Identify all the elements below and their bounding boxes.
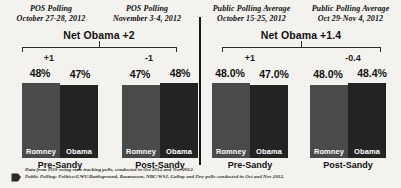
column-header-dates: Oct 29-Nov 4, 2012 [302, 14, 399, 24]
bar-label-romney: Romney [122, 147, 160, 156]
column-header-title: POS Polling [126, 4, 168, 13]
percent-label-romney-4: 48.0% [305, 68, 351, 80]
bar-obama-3: Obama [250, 85, 288, 158]
column-header-title: Public Polling Average [312, 4, 390, 13]
bar-obama-2: Obama [160, 83, 198, 158]
bar-label-romney: Romney [22, 147, 60, 156]
percent-label-obama-3: 47.0% [251, 68, 297, 80]
footnote-line-2: Public Polling: Politico/GWU/Battlegroun… [25, 174, 284, 181]
diff-label-2: -1 [124, 53, 174, 63]
percent-label-romney-3: 48.0% [207, 67, 253, 79]
source-mark-icon [11, 173, 22, 182]
bar-label-romney: Romney [212, 147, 250, 156]
column-header-3: Public Polling Average October 15-25, 20… [203, 4, 300, 23]
net-obama-label-left: Net Obama +2 [14, 29, 184, 41]
footnote-line-1: Data from POS swing state tracking polls… [25, 167, 194, 174]
diff-label-1: +1 [24, 53, 74, 63]
percent-label-romney-1: 48% [20, 67, 60, 79]
bar-label-obama: Obama [250, 147, 288, 156]
poll-comparison-chart: POS Polling October 27-28, 2012 POS Poll… [0, 0, 401, 188]
bracket-left [22, 47, 177, 52]
percent-label-obama-4: 48.4% [349, 67, 395, 79]
group-caption-4: Post-Sandy [308, 160, 388, 170]
column-header-2: POS Polling November 3-4, 2012 [100, 4, 194, 23]
diff-label-3: +1 [225, 53, 275, 63]
bar-label-romney: Romney [310, 147, 348, 156]
column-header-title: Public Polling Average [213, 4, 291, 13]
column-header-1: POS Polling October 27-28, 2012 [4, 4, 98, 23]
column-header-4: Public Polling Average Oct 29-Nov 4, 201… [302, 4, 399, 23]
bracket-right [222, 47, 381, 52]
group-caption-3: Pre-Sandy [210, 160, 290, 170]
panel-divider [199, 17, 201, 165]
net-obama-label-right: Net Obama +1.4 [212, 29, 390, 41]
bar-obama-1: Obama [60, 85, 98, 158]
percent-label-obama-2: 48% [160, 67, 200, 79]
diff-label-4: -0.4 [328, 53, 378, 63]
bar-obama-4: Obama [348, 83, 386, 158]
percent-label-romney-2: 47% [120, 68, 160, 80]
percent-label-obama-1: 47% [60, 68, 100, 80]
bar-label-obama: Obama [348, 147, 386, 156]
bar-romney-4: Romney [310, 85, 348, 158]
bar-romney-1: Romney [22, 83, 60, 158]
bar-label-obama: Obama [160, 147, 198, 156]
bar-romney-3: Romney [212, 83, 250, 158]
column-header-dates: October 15-25, 2012 [203, 14, 300, 24]
column-header-dates: October 27-28, 2012 [4, 14, 98, 24]
column-header-title: POS Polling [30, 4, 72, 13]
bar-label-obama: Obama [60, 147, 98, 156]
column-header-dates: November 3-4, 2012 [100, 14, 194, 24]
bar-romney-2: Romney [122, 85, 160, 158]
